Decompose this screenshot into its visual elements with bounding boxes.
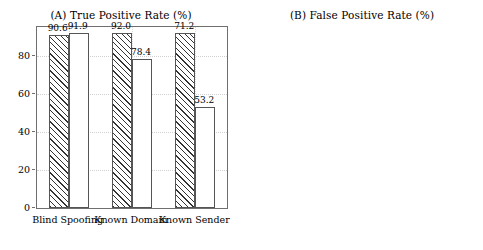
x-axis-category-label: Known Domain [94, 214, 167, 225]
bar-value-label: 53.2 [194, 95, 214, 105]
bar-gascon [69, 33, 89, 208]
panel-a-title: (A) True Positive Rate (%) [0, 9, 242, 21]
panel-a-true-positive-rate: (A) True Positive Rate (%) 02040608090.6… [0, 0, 242, 250]
bar-raider [175, 33, 195, 208]
y-axis-tick-label: 0 [465, 202, 483, 213]
bar-value-label: 71.2 [174, 21, 194, 31]
x-axis-category-label: Known Sender [159, 214, 230, 225]
x-axis-category-label: Blind Spoofing [32, 214, 103, 225]
y-axis-tick-mark [32, 207, 35, 208]
y-axis-tick-label: 20 [0, 163, 30, 174]
y-axis-tick-label: 80 [0, 49, 30, 60]
y-axis-tick-label: 0 [0, 202, 30, 213]
bar-value-label: 92.0 [111, 21, 131, 31]
bar-value-label: 78.4 [131, 47, 151, 57]
y-axis-tick-mark [32, 55, 35, 56]
bar-raider [112, 33, 132, 208]
y-axis-tick-mark [32, 131, 35, 132]
y-axis-tick-mark [32, 169, 35, 170]
y-axis-tick-mark [32, 93, 35, 94]
y-axis-tick-label: 15 [465, 111, 483, 122]
y-axis-tick-label: 25 [465, 51, 483, 62]
panel-b-false-positive-rate: (B) False Positive Rate (%) RAIDER Gasco… [241, 0, 483, 250]
panel-b-title: (B) False Positive Rate (%) [241, 9, 483, 21]
bar-value-label: 90.6 [48, 23, 68, 33]
bar-gascon [195, 107, 215, 208]
figure-two-panel-bar-chart: (A) True Positive Rate (%) 02040608090.6… [0, 0, 483, 250]
bar-raider [49, 35, 69, 208]
y-axis-tick-label: 20 [465, 81, 483, 92]
bar-gascon [132, 59, 152, 208]
y-axis-tick-label: 60 [0, 87, 30, 98]
y-axis-tick-label: 30 [465, 21, 483, 32]
bar-value-label: 91.9 [68, 21, 88, 31]
y-axis-tick-label: 40 [0, 125, 30, 136]
y-axis-tick-label: 5 [465, 171, 483, 182]
y-axis-tick-label: 10 [465, 141, 483, 152]
